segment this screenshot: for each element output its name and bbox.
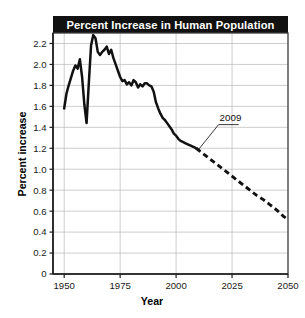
y-tick-label: 1.4 [33,122,47,133]
y-tick-label: 0.2 [33,247,46,258]
y-tick-label: 2.2 [33,38,46,49]
y-tick-label: 1.2 [33,143,46,154]
annotation-label-2009: 2009 [220,112,242,123]
x-tick-label: 1950 [54,280,75,291]
y-tick-label: 1.0 [33,164,46,175]
y-tick-label: 0 [41,268,46,279]
x-tick-label: 2050 [277,280,298,291]
plot-background [53,33,288,274]
chart-canvas: Percent Increase in Human Population 00.… [0,0,305,318]
y-tick-label: 1.8 [33,80,46,91]
y-axis-title: Percent increase [16,111,28,196]
plot-area [53,33,288,274]
chart-title: Percent Increase in Human Population [66,19,274,31]
x-tick-label: 2025 [221,280,242,291]
chart-title-bar: Percent Increase in Human Population [53,16,288,33]
x-axis-title: Year [141,295,163,307]
y-tick-label: 2.0 [33,59,46,70]
y-tick-label: 1.6 [33,101,46,112]
x-tick-label: 1975 [109,280,130,291]
y-tick-label: 0.4 [33,226,47,237]
y-tick-label: 0.6 [33,206,46,217]
population-growth-chart: Percent Increase in Human Population 00.… [0,0,305,318]
x-tick-label: 2000 [165,280,186,291]
y-tick-label: 0.8 [33,185,46,196]
